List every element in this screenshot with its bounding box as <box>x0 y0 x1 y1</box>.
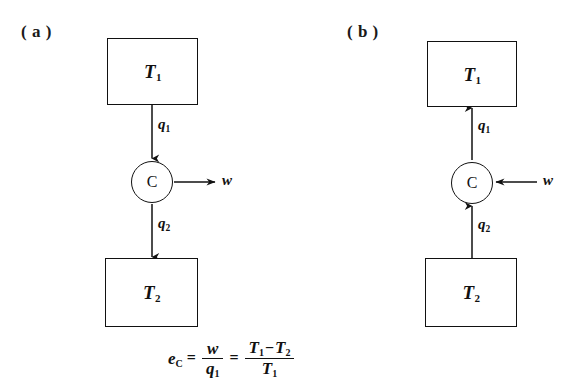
fraction2-numerator-left: T1 <box>249 338 264 357</box>
panel-label-b-text: ( b ) <box>344 22 382 41</box>
equation-fraction-temperature-ratio: T1−T2 T1 <box>243 339 297 377</box>
carnot-cycle-figure: ( a ) T1 q1 C w q2 T2 ( b ) T1 q1 C w q2… <box>0 0 575 389</box>
panel-b-engine-label: C <box>467 175 478 191</box>
panel-label-a-text: ( a ) <box>18 22 55 41</box>
panel-b-q2-label: q2 <box>478 217 490 232</box>
panel-a-cold-reservoir-box: T2 <box>105 258 198 327</box>
panel-a-q1-label: q1 <box>158 117 170 132</box>
panel-b-w-label: w <box>543 173 553 188</box>
equation-equals-first: = <box>183 350 200 366</box>
fraction2-numerator: T1−T2 <box>245 339 295 358</box>
fraction1-numerator: w <box>203 340 222 358</box>
carnot-efficiency-equation: eC = w q1 = T1−T2 T1 <box>168 339 296 377</box>
fraction2-denominator: T1 <box>258 359 281 377</box>
panel-label-a: ( a ) <box>18 22 55 42</box>
fraction2-numerator-minus: − <box>264 339 275 356</box>
panel-label-b: ( b ) <box>344 22 382 42</box>
equation-fraction-work-over-heat: w q1 <box>200 340 226 377</box>
panel-a-q2-label: q2 <box>158 216 170 231</box>
fraction1-denominator: q1 <box>202 359 224 377</box>
equation-lhs: eC <box>168 350 183 367</box>
panel-b-engine-circle: C <box>451 162 493 204</box>
panel-a-engine-circle: C <box>131 161 173 203</box>
fraction2-numerator-right: T2 <box>275 338 290 357</box>
equation-equals-second: = <box>225 350 242 366</box>
panel-a-hot-reservoir-box: T1 <box>107 38 198 105</box>
panel-b-hot-reservoir-box: T1 <box>427 41 517 107</box>
panel-b-hot-reservoir-label: T1 <box>463 65 480 84</box>
panel-a-w-label: w <box>222 173 232 188</box>
panel-a-engine-label: C <box>147 174 158 190</box>
panel-b-cold-reservoir-box: T2 <box>425 258 517 327</box>
panel-b-q1-label: q1 <box>478 118 490 133</box>
panel-b-cold-reservoir-label: T2 <box>462 283 479 302</box>
panel-a-cold-reservoir-label: T2 <box>143 283 160 302</box>
panel-a-hot-reservoir-label: T1 <box>144 62 161 81</box>
